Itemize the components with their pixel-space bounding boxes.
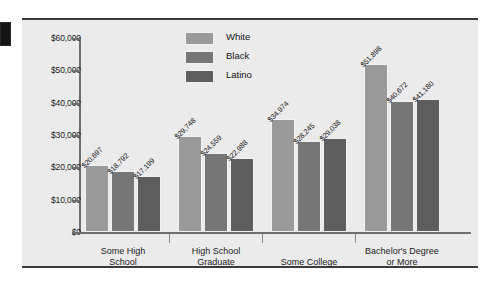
y-axis-tick-mark <box>72 38 81 40</box>
bar <box>85 165 109 232</box>
y-axis-tick-mark <box>72 103 81 105</box>
legend-swatch-black <box>185 51 214 64</box>
x-axis-group-separator <box>355 234 356 243</box>
x-axis-category-label: Some College <box>258 257 360 268</box>
x-axis-group-separator <box>262 234 263 243</box>
chart-figure-panel: $60,000$50,000$40,000$30,000$20,000$10,0… <box>22 18 478 268</box>
bar <box>230 158 254 232</box>
bar <box>271 119 295 232</box>
bar <box>323 138 347 232</box>
x-axis-category-label: High School Graduate <box>165 246 267 268</box>
y-axis-tick: $0 <box>22 227 81 238</box>
chart-legend: White Black Latino <box>185 30 305 87</box>
y-axis-tick-mark <box>72 135 81 137</box>
legend-swatch-latino <box>185 70 214 83</box>
legend-label-black: Black <box>226 50 249 61</box>
x-axis-baseline <box>79 232 471 234</box>
bar <box>137 176 161 232</box>
y-axis-tick-mark <box>72 70 81 72</box>
legend-item-latino: Latino <box>185 68 305 87</box>
plot-area: $60,000$50,000$40,000$30,000$20,000$10,0… <box>22 20 478 270</box>
bar <box>111 171 135 232</box>
legend-item-black: Black <box>185 49 305 68</box>
bar <box>364 64 388 232</box>
y-axis-tick: $40,000 <box>22 98 81 109</box>
legend-item-white: White <box>185 30 305 49</box>
y-axis-tick-mark <box>72 200 81 202</box>
x-axis-category-label: Some High School <box>72 246 174 268</box>
y-axis-tick: $50,000 <box>22 65 81 76</box>
y-axis-tick-mark <box>72 167 81 169</box>
y-axis-tick: $60,000 <box>22 33 81 44</box>
legend-swatch-white <box>185 32 214 45</box>
bar <box>297 141 321 232</box>
y-axis-tick: $30,000 <box>22 130 81 141</box>
x-axis-category-label: Bachelor's Degree or More <box>351 246 453 268</box>
bar <box>204 153 228 232</box>
bar <box>390 101 414 233</box>
legend-label-white: White <box>226 31 250 42</box>
y-axis-tick-mark <box>72 232 81 234</box>
y-axis-tick: $20,000 <box>22 162 81 173</box>
bar <box>416 99 440 232</box>
page-edge-tab-marker <box>0 22 11 46</box>
legend-label-latino: Latino <box>226 69 252 80</box>
y-axis-tick: $10,000 <box>22 195 81 206</box>
x-axis-group-separator <box>169 234 170 243</box>
